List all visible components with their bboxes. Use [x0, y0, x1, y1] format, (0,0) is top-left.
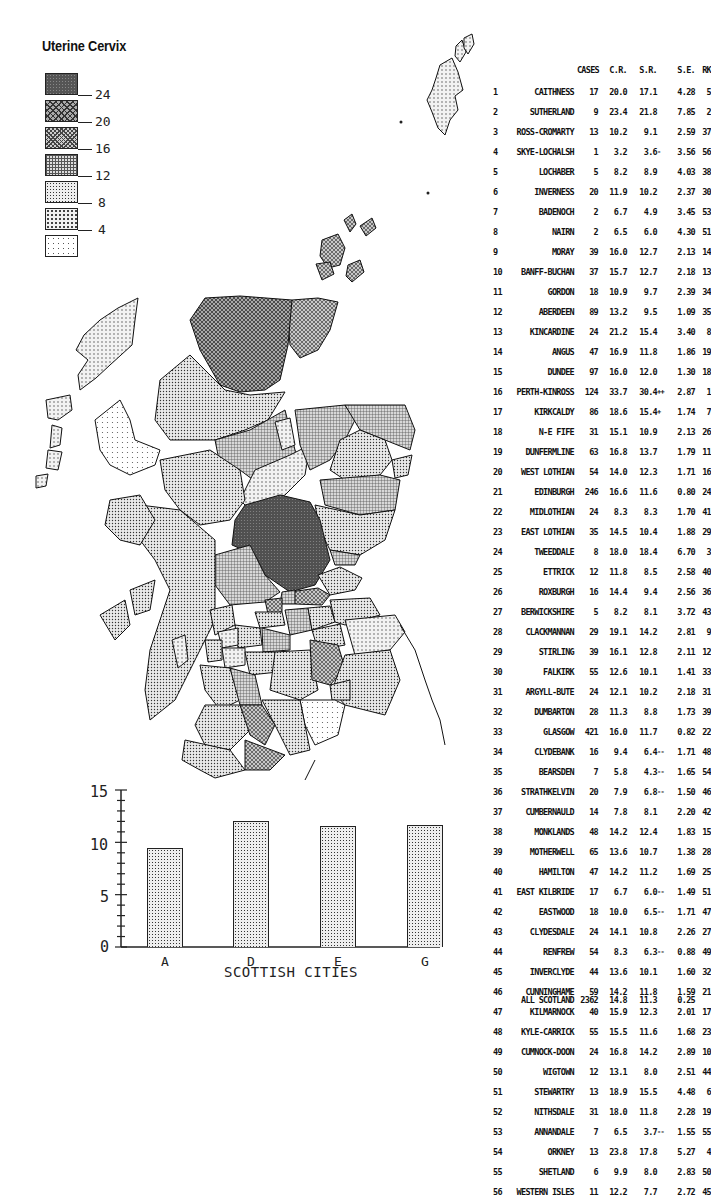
cases-value: 1 — [575, 142, 598, 162]
standardized-rate-value: 9.5 — [631, 302, 657, 322]
table-row: 14ANGUS4716.911.81.8619 — [485, 342, 700, 362]
rank-value: 13 — [697, 262, 711, 282]
standardized-rate-value: 11.7 — [631, 722, 657, 742]
y-tick-0: 0 — [100, 938, 109, 956]
cases-value: 124 — [575, 382, 598, 402]
rank-value: 1 — [697, 382, 711, 402]
region-shetland — [427, 58, 463, 135]
table-row: 38MONKLANDS4814.212.41.8315 — [485, 822, 700, 842]
total-se: 0.25 — [655, 990, 695, 1010]
district-name: CUMBERNAULD — [493, 802, 574, 822]
crude-rate-value: 7.8 — [600, 802, 627, 822]
crude-rate-value: 16.6 — [600, 482, 627, 502]
crude-rate-value: 19.1 — [600, 622, 627, 642]
crude-rate-value: 9.4 — [600, 742, 627, 762]
region-aberdeen — [392, 455, 412, 478]
district-name: KINCARDINE — [493, 322, 574, 342]
table-row: 8NAIRN26.56.04.3051 — [485, 222, 700, 242]
standard-error-value: 2.83 — [655, 1162, 695, 1182]
standardized-rate-value: 7.7 — [631, 1182, 657, 1199]
crude-rate-value: 15.5 — [600, 1022, 627, 1042]
all-scotland-total-row: ALL SCOTLAND 2362 14.8 11.3 0.25 — [485, 990, 700, 1010]
x-axis-label: SCOTTISH CITIES — [224, 964, 358, 980]
standardized-rate-value: 12.7 — [631, 242, 657, 262]
cases-value: 48 — [575, 822, 598, 842]
rank-value: 23 — [697, 1022, 711, 1042]
total-cr: 14.8 — [600, 990, 627, 1010]
cases-value: 55 — [575, 1022, 598, 1042]
region-berwickshire — [345, 615, 405, 655]
cases-value: 65 — [575, 842, 598, 862]
cases-value: 16 — [575, 742, 598, 762]
standard-error-value: 3.72 — [655, 602, 695, 622]
crude-rate-value: 21.2 — [600, 322, 627, 342]
cases-value: 17 — [575, 882, 598, 902]
standard-error-value: 2.18 — [655, 682, 695, 702]
standardized-rate-value: 6.8 — [631, 782, 657, 802]
rank-value: 25 — [697, 862, 711, 882]
district-name: GORDON — [493, 282, 574, 302]
table-row: 54ORKNEY1323.817.85.274 — [485, 1142, 700, 1162]
cases-value: 5 — [575, 162, 598, 182]
table-row: 35BEARSDEN75.84.3--1.6554 — [485, 762, 700, 782]
table-row: 45INVERCLYDE4413.610.11.6032 — [485, 962, 700, 982]
standard-error-value: 7.85 — [655, 102, 695, 122]
rank-value: 2 — [697, 102, 711, 122]
district-name: MIDLOTHIAN — [493, 502, 574, 522]
cases-value: 7 — [575, 762, 598, 782]
table-header: CASES C.R. S.R. S.E. RK — [485, 60, 700, 82]
district-name: EAST LOTHIAN — [493, 522, 574, 542]
district-name: LOCHABER — [493, 162, 574, 182]
district-name: KYLE-CARRICK — [493, 1022, 574, 1042]
region-inverclyde — [205, 640, 222, 662]
cases-value: 54 — [575, 942, 598, 962]
standardized-rate-value: 30.4 — [631, 382, 657, 402]
table-row: 11GORDON1810.99.72.3934 — [485, 282, 700, 302]
standardized-rate-value: 8.0 — [631, 1162, 657, 1182]
crude-rate-value: 12.6 — [600, 662, 627, 682]
crude-rate-value: 14.2 — [600, 862, 627, 882]
standard-error-value: 0.80 — [655, 482, 695, 502]
district-name: ETTRICK — [493, 562, 574, 582]
crude-rate-value: 23.4 — [600, 102, 627, 122]
standard-error-value: 1.73 — [655, 702, 695, 722]
crude-rate-value: 14.2 — [600, 822, 627, 842]
region-argyll-bute — [140, 505, 215, 720]
table-row: 30FALKIRK5512.610.11.4133 — [485, 662, 700, 682]
table-row: 37CUMBERNAULD147.88.12.2042 — [485, 802, 700, 822]
standard-error-value: 1.60 — [655, 962, 695, 982]
standard-error-value: 2.51 — [655, 1062, 695, 1082]
col-header-cases: CASES — [567, 60, 599, 80]
standardized-rate-value: 10.9 — [631, 422, 657, 442]
rank-value: 36 — [697, 582, 711, 602]
crude-rate-value: 6.7 — [600, 202, 627, 222]
rank-value: 46 — [697, 782, 711, 802]
standard-error-value: 2.37 — [655, 182, 695, 202]
crude-rate-value: 14.0 — [600, 462, 627, 482]
cases-value: 54 — [575, 462, 598, 482]
y-tick-5: 5 — [100, 888, 109, 906]
standard-error-value: 4.03 — [655, 162, 695, 182]
standardized-rate-value: 15.5 — [631, 1082, 657, 1102]
rank-value: 38 — [697, 162, 711, 182]
rank-value: 55 — [697, 1122, 711, 1142]
crude-rate-value: 6.5 — [600, 1122, 627, 1142]
standard-error-value: 2.18 — [655, 262, 695, 282]
table-row: 42EASTWOOD1810.06.5--1.7147 — [485, 902, 700, 922]
standard-error-value: 3.56 — [655, 142, 695, 162]
standardized-rate-value: 12.0 — [631, 362, 657, 382]
cases-value: 2 — [575, 202, 598, 222]
crude-rate-value: 15.7 — [600, 262, 627, 282]
table-row: 27BERWICKSHIRE58.28.13.7243 — [485, 602, 700, 622]
rank-value: 56 — [697, 142, 711, 162]
table-row: 1CAITHNESS1720.017.14.285 — [485, 82, 700, 102]
district-name: WIGTOWN — [493, 1062, 574, 1082]
total-sr: 11.3 — [631, 990, 657, 1010]
crude-rate-value: 8.3 — [600, 942, 627, 962]
crude-rate-value: 8.2 — [600, 602, 627, 622]
table-row: 39MOTHERWELL6513.610.71.3828 — [485, 842, 700, 862]
standardized-rate-value: 8.3 — [631, 502, 657, 522]
rank-value: 15 — [697, 822, 711, 842]
crude-rate-value: 16.8 — [600, 1042, 627, 1062]
cases-value: 13 — [575, 1142, 598, 1162]
